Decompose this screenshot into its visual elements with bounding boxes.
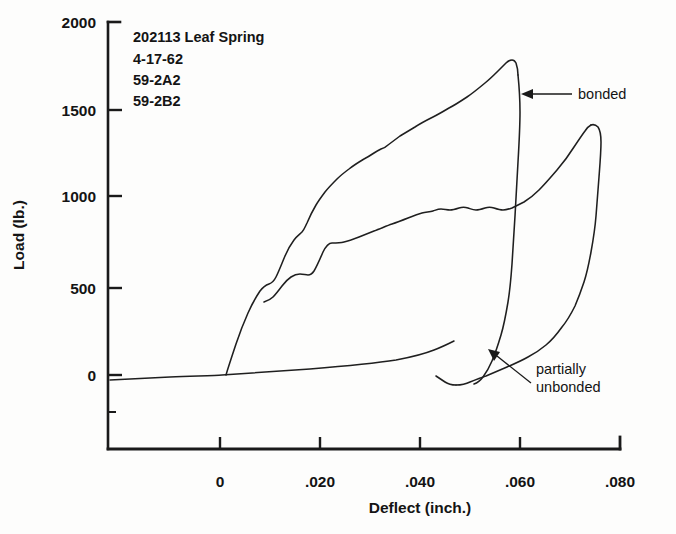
x-axis: [108, 437, 620, 449]
x-tick-label-020: .020: [305, 473, 335, 490]
bonded-arrowhead: [521, 89, 533, 99]
curve-plateau-branch: [264, 125, 591, 302]
annotation-line-4: 59-2B2: [133, 93, 181, 109]
callout-partially-unbonded: partially unbonded: [488, 349, 601, 395]
curve-partially-unbonded: [456, 125, 601, 385]
annotation-line-2: 4-17-62: [133, 51, 183, 67]
callout-unbonded-line-1: partially: [536, 361, 587, 377]
y-axis-ticks: [108, 110, 122, 412]
y-axis: [108, 22, 120, 449]
y-tick-label-2000: 2000: [62, 14, 96, 31]
x-tick-label-040: .040: [405, 473, 435, 490]
x-axis-ticks: [220, 437, 520, 449]
x-tick-label-0: 0: [216, 473, 225, 490]
annotation-line-1: 202113 Leaf Spring: [133, 29, 264, 45]
x-axis-title: Deflect (inch.): [369, 499, 471, 516]
y-axis-title: Load (lb.): [10, 200, 27, 270]
curve-baseline-return: [110, 341, 454, 380]
callout-unbonded-line-2: unbonded: [536, 379, 601, 395]
unbonded-arrowhead: [488, 349, 500, 361]
callout-bonded-label: bonded: [578, 86, 626, 102]
curve-unbonded-baseline-join: [436, 376, 456, 385]
y-tick-label-1000: 1000: [62, 188, 96, 205]
y-tick-label-500: 500: [70, 280, 96, 297]
callout-bonded: bonded: [521, 86, 626, 102]
x-tick-label-080: .080: [605, 473, 635, 490]
y-tick-label-1500: 1500: [62, 102, 96, 119]
leaf-spring-load-deflection-chart: 2000 1500 1000 500 0 0 .020 .040 .060 .0…: [0, 0, 676, 534]
figure-container: 2000 1500 1000 500 0 0 .020 .040 .060 .0…: [0, 0, 676, 534]
x-tick-label-060: .060: [505, 473, 535, 490]
y-tick-label-0: 0: [87, 367, 96, 384]
annotation-line-3: 59-2A2: [133, 72, 181, 88]
curve-bonded-unloading: [474, 75, 520, 384]
curve-bonded-loading: [226, 60, 518, 375]
